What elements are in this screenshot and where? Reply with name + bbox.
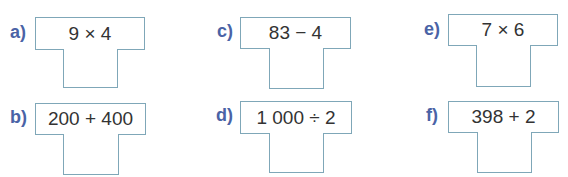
exercise-label-b: b) [10, 107, 27, 127]
exercise-label-a: a) [10, 22, 26, 42]
exercise-label-e: e) [424, 19, 440, 39]
expression-box-f: 398 + 2 [448, 101, 559, 133]
expression-box-d: 1 000 ÷ 2 [240, 101, 352, 134]
answer-box-a[interactable] [63, 49, 118, 88]
answer-box-d[interactable] [269, 133, 324, 173]
answer-box-c[interactable] [269, 48, 324, 89]
exercise-label-d: d) [216, 105, 233, 125]
exercise-label-f: f) [426, 105, 438, 125]
answer-box-b[interactable] [63, 134, 119, 175]
expression-box-b: 200 + 400 [35, 103, 146, 135]
answer-box-f[interactable] [477, 132, 532, 173]
expression-box-a: 9 × 4 [35, 17, 145, 50]
answer-box-e[interactable] [476, 45, 531, 87]
expression-box-e: 7 × 6 [448, 14, 558, 46]
exercise-label-c: c) [217, 21, 233, 41]
expression-box-c: 83 − 4 [240, 17, 351, 49]
